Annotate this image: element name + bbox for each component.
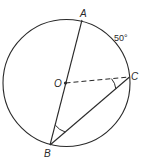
circle-diagram: A O C B 50° <box>0 0 145 164</box>
label-A: A <box>79 8 87 19</box>
chord-BC <box>50 77 130 145</box>
radius-OC-dashed <box>66 77 130 83</box>
label-B: B <box>44 148 51 159</box>
label-O: O <box>54 78 62 89</box>
label-C: C <box>131 71 139 82</box>
center-point-O <box>64 81 67 84</box>
angle-arc-B <box>55 125 65 132</box>
angle-arc-C <box>112 79 116 89</box>
arc-angle-label: 50° <box>114 33 128 43</box>
